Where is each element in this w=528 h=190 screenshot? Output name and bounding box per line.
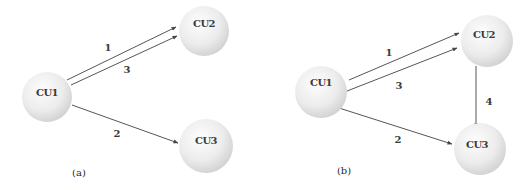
node-a-cu3: CU3: [179, 119, 233, 173]
node-label: CU2: [193, 18, 216, 29]
node-circle: [295, 66, 347, 118]
node-b-cu1: CU1: [295, 66, 347, 118]
node-b-cu2: CU2: [461, 15, 513, 67]
node-label: CU3: [195, 135, 218, 146]
node-b-cu3: CU3: [454, 123, 506, 175]
edge-label-4: 4: [486, 96, 493, 107]
node-circle: [461, 15, 513, 67]
node-label: CU2: [473, 29, 496, 40]
node-label: CU1: [310, 77, 332, 88]
panel-a: CU1 CU2 CU3 1 3 2 (a): [22, 6, 233, 178]
edge-label-1: 1: [105, 42, 112, 53]
edge-label-2: 2: [395, 134, 402, 145]
edge-a-2-cu1-cu3: [72, 105, 178, 143]
node-label: CU3: [466, 139, 489, 150]
edge-a-3-cu1-cu2: [71, 36, 177, 85]
diagram-canvas: CU1 CU2 CU3 1 3 2 (a) CU1 CU2: [0, 0, 528, 190]
edge-label-3: 3: [124, 64, 131, 75]
edge-a-1-cu1-cu2: [67, 27, 176, 80]
edge-label-3: 3: [396, 80, 403, 91]
node-circle: [179, 119, 233, 173]
panel-caption: (b): [337, 165, 351, 176]
panel-caption: (a): [72, 167, 86, 178]
node-a-cu1: CU1: [22, 72, 72, 122]
edge-b-1-cu1-cu2: [349, 33, 459, 80]
node-circle: [179, 6, 229, 56]
node-label: CU1: [36, 87, 58, 98]
panel-b: CU1 CU2 CU3 1 3 2 4 (b): [295, 15, 513, 176]
edge-label-1: 1: [386, 47, 393, 58]
edge-label-2: 2: [114, 128, 121, 139]
node-a-cu2: CU2: [179, 6, 229, 56]
